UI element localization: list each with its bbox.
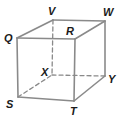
edge-TY (74, 76, 105, 101)
edge-RT (74, 39, 75, 101)
edge-QV (17, 20, 53, 38)
label-Q: Q (4, 32, 13, 44)
label-V: V (48, 5, 57, 17)
label-S: S (6, 98, 14, 110)
edge-VW (53, 20, 105, 21)
edge-QS (17, 38, 18, 97)
label-R: R (66, 25, 74, 37)
edge-ST (18, 97, 74, 101)
edge-XY (52, 75, 105, 76)
label-W: W (103, 6, 115, 18)
edge-RW (75, 21, 105, 39)
label-T: T (70, 105, 78, 117)
edge-VX (52, 20, 53, 75)
edge-SX (18, 75, 52, 97)
edge-QR (17, 38, 75, 39)
label-X: X (40, 66, 49, 78)
prism-diagram: Q V R W X Y S T (0, 0, 125, 122)
label-Y: Y (108, 73, 117, 85)
